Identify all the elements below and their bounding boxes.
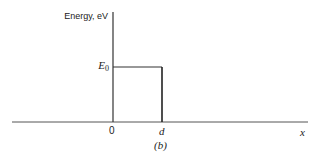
- energy-barrier-diagram: Energy, eV E0 0 d x (b): [0, 0, 320, 160]
- figure-caption: (b): [154, 140, 167, 151]
- energy-level-label: E0: [98, 60, 109, 73]
- x-tick-d: d: [159, 126, 165, 137]
- x-axis-label: x: [300, 127, 305, 138]
- energy-level-symbol: E: [98, 59, 105, 71]
- y-axis-label: Energy, eV: [64, 12, 108, 21]
- x-tick-origin: 0: [109, 126, 115, 136]
- energy-level-subscript: 0: [105, 64, 109, 73]
